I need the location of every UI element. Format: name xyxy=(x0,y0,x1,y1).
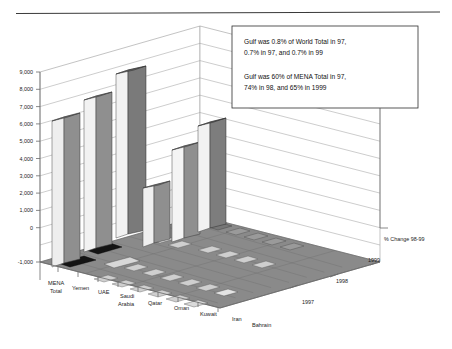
category-label-oman: Oman xyxy=(174,305,189,311)
bar-uae-side xyxy=(116,70,128,238)
category-label-kuwait: Kuwait xyxy=(200,311,217,317)
y-tick-label-9000: 9,000 xyxy=(20,69,34,75)
y-tick-label-5000: 5,000 xyxy=(20,138,34,144)
bar-qatar-side xyxy=(172,146,184,242)
bar-yemen-front xyxy=(96,92,112,248)
bar-qatar-front xyxy=(184,142,200,238)
category-label-saudi-line2: Arabia xyxy=(118,301,135,307)
category-label-bahrain: Bahrain xyxy=(252,322,271,328)
category-label-yemen: Yemen xyxy=(72,285,89,291)
category-label-mena-line2: Total xyxy=(50,288,62,294)
chart-screenshot: 9,000 8,000 7,000 6,000 5,000 4,000 3,00… xyxy=(0,0,452,349)
category-label-iran: Iran xyxy=(232,316,242,322)
callout-paragraph2-line1: Gulf was 60% of MENA Total in 97, xyxy=(244,73,346,80)
series-label-1999: 1999 xyxy=(368,257,380,263)
bar-uae-row-tall xyxy=(116,66,146,238)
series-label-1998: 1998 xyxy=(336,278,348,284)
three-d-bar-chart: 9,000 8,000 7,000 6,000 5,000 4,000 3,00… xyxy=(0,0,452,349)
bar-mena-total-front xyxy=(64,113,80,263)
bar-oman-side xyxy=(198,122,210,232)
category-label-mena-line1: MENA xyxy=(48,280,64,286)
bar-mena-total xyxy=(52,113,80,267)
bar-qatar-row xyxy=(172,142,200,242)
callout-paragraph1-line1: Gulf was 0.8% of World Total in 97, xyxy=(244,38,347,45)
series-label-pct-change: % Change 98-99 xyxy=(384,236,424,242)
y-tick-label-8000: 8,000 xyxy=(20,86,34,92)
series-label-1997: 1997 xyxy=(302,299,314,305)
y-tick-label-1000: 1,000 xyxy=(20,207,34,213)
y-axis-ticks xyxy=(36,72,40,262)
y-tick-label-7000: 7,000 xyxy=(20,104,34,110)
bar-yemen-side xyxy=(84,96,96,252)
y-tick-label-6000: 6,000 xyxy=(20,121,34,127)
top-horizontal-rule xyxy=(16,12,440,14)
bar-saudi-row-mid xyxy=(143,181,170,247)
bar-mena-total-side xyxy=(52,117,64,267)
y-tick-label-4000: 4,000 xyxy=(20,156,34,162)
category-label-qatar: Qatar xyxy=(148,300,162,306)
callout-paragraph2-line2: 74% in 98, and 65% in 1999 xyxy=(244,84,327,91)
bar-saudi-front xyxy=(154,181,170,243)
callout-paragraph1-line2: 0.7% in 97, and 0.7% in 99 xyxy=(244,49,323,56)
bar-oman-row xyxy=(198,118,226,232)
bar-yemen-row-tall xyxy=(84,92,112,252)
bar-saudi-side xyxy=(143,185,154,247)
y-tick-label-minus1000: -1,000 xyxy=(18,259,33,265)
y-axis: 9,000 8,000 7,000 6,000 5,000 4,000 3,00… xyxy=(18,69,40,280)
y-tick-label-3000: 3,000 xyxy=(20,173,34,179)
y-tick-label-2000: 2,000 xyxy=(20,190,34,196)
bar-oman-front xyxy=(210,118,226,228)
category-label-uae: UAE xyxy=(98,289,110,295)
category-label-saudi-line1: Saudi xyxy=(120,293,134,299)
y-tick-label-0: 0 xyxy=(30,225,33,231)
